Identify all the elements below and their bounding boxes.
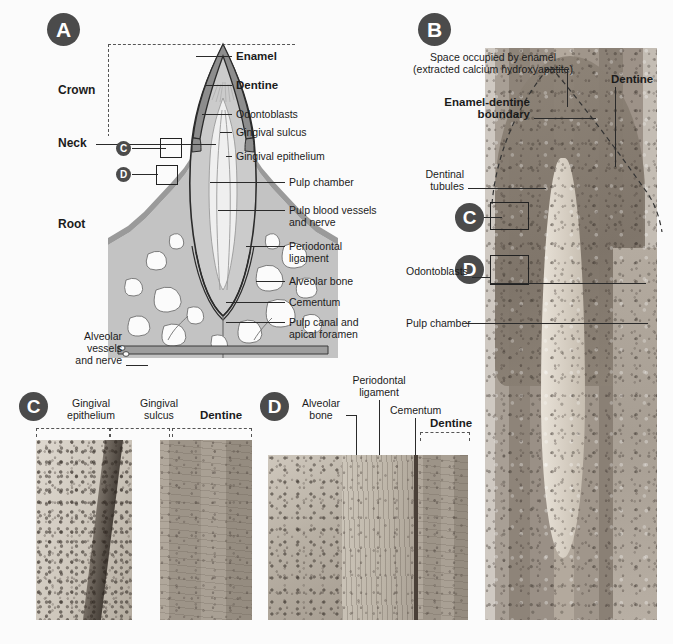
- leader-alveolar-bone-a: [256, 281, 285, 282]
- label-pulp-vessels-a: Pulp blood vessels and nerve: [289, 204, 377, 228]
- label-odontoblasts-a: Odontoblasts: [236, 108, 298, 120]
- leader-cementum-d: [415, 418, 416, 456]
- label-cementum-a: Cementum: [289, 296, 340, 308]
- leader-enamel-space-b-v: [567, 69, 568, 107]
- label-root: Root: [58, 218, 85, 230]
- label-crown: Crown: [58, 84, 95, 96]
- leader-pulp-canal-a: [226, 322, 285, 323]
- dashed-bracket-dentine-c: [172, 428, 252, 437]
- label-enamel-a: Enamel: [236, 50, 277, 62]
- label-gingival-sulcus-a: Gingival sulcus: [236, 126, 307, 138]
- label-dentine-d: Dentine: [430, 417, 472, 429]
- leader-enamel-a: [196, 56, 232, 57]
- label-dentine-a: Dentine: [236, 79, 278, 91]
- leader-cementum-a: [226, 302, 285, 303]
- leader-odontoblasts-a: [202, 114, 232, 115]
- label-alveolar-bone-a: Alveolar bone: [289, 275, 353, 287]
- panel-d-badge: D: [260, 392, 289, 421]
- label-alveolar-vessels-a: Alveolar vessels and nerve: [62, 330, 122, 366]
- sulcus-dark-band-c: [83, 440, 123, 620]
- dentinal-tubule-stripes-c: [160, 440, 252, 620]
- figure-canvas: A: [0, 0, 673, 644]
- leader-dentine-b: [615, 87, 616, 167]
- micrograph-d-bone-cells: [268, 455, 342, 620]
- leader-pulp-chamber-b: [466, 323, 648, 324]
- label-gingival-epithelium-a: Gingival epithelium: [236, 150, 325, 162]
- micrograph-panel-c-epithelium: [36, 440, 132, 620]
- leader-gingival-sulcus-a: [220, 132, 232, 133]
- panel-a-roi-c-badge: C: [116, 141, 131, 156]
- leader-neck: [96, 144, 216, 145]
- leader-periodontal-ligament-a: [246, 246, 285, 247]
- micrograph-panel-d-bone: [268, 455, 342, 620]
- leader-odontoblasts-b-left: [472, 277, 490, 278]
- roi-box-c-on-a: [160, 138, 182, 158]
- panel-c-badge: C: [19, 392, 48, 421]
- ligament-fibres-d: [342, 455, 414, 620]
- dashed-bracket-gingival-epithelium-c: [36, 428, 110, 437]
- dashed-bracket-gingival-sulcus-c: [110, 428, 170, 437]
- label-pulp-chamber-b: Pulp chamber: [406, 317, 471, 329]
- label-periodontal-ligament-d: Periodontal ligament: [342, 374, 416, 398]
- panel-a-roi-d-badge: D: [116, 167, 131, 182]
- label-dentinal-tubules-b: Dentinal tubules: [406, 168, 464, 192]
- label-dentine-c: Dentine: [186, 409, 256, 421]
- label-odontoblasts-b: Odontoblasts: [406, 265, 468, 277]
- leader-pulp-vessels-a: [218, 210, 285, 211]
- leader-alveolar-vessels-a: [126, 365, 148, 366]
- panel-b-roi-c-badge: C: [455, 203, 484, 232]
- leader-roi-d: [132, 174, 158, 175]
- micrograph-panel-d-ligament: [342, 455, 414, 620]
- micrograph-panel-d-dentine: [418, 455, 468, 620]
- leader-odontoblasts-b-right: [490, 283, 646, 284]
- label-alveolar-bone-d: Alveolar bone: [290, 397, 352, 421]
- leader-dentinal-tubules-b: [468, 188, 546, 189]
- label-periodontal-ligament-a: Periodontal ligament: [289, 240, 342, 264]
- label-enamel-dentine-boundary-b: Enamel-dentine boundary: [412, 96, 530, 120]
- label-gingival-epithelium-c: Gingival epithelium: [56, 397, 126, 421]
- panel-a-badge: A: [47, 13, 80, 46]
- leader-gingival-epithelium-a: [226, 156, 232, 157]
- leader-enamel-space-b-h: [545, 69, 567, 70]
- label-dentine-b: Dentine: [611, 73, 653, 85]
- dentinal-tubule-stripes-d: [418, 455, 468, 620]
- roi-box-d-on-b: [490, 255, 529, 285]
- leader-periodontal-ligament-d: [379, 400, 380, 455]
- micrograph-panel-c-dentine: [160, 440, 252, 620]
- micrograph-c-cells: [36, 440, 132, 620]
- dashed-bracket-dentine-d: [420, 432, 470, 441]
- leader-alveolar-bone-d-h: [346, 415, 356, 416]
- roi-box-c-on-b: [490, 202, 529, 230]
- roi-box-d-on-a: [156, 165, 178, 185]
- alveolar-bone-region-b: [613, 248, 657, 620]
- label-pulp-canal-a: Pulp canal and apical foramen: [289, 316, 358, 340]
- leader-alveolar-bone-d-v: [356, 415, 357, 455]
- leader-pulp-chamber-a: [210, 182, 285, 183]
- leader-enamel-dentine-boundary-b: [534, 118, 596, 119]
- leader-dentine-a: [206, 85, 232, 86]
- label-pulp-chamber-a: Pulp chamber: [289, 176, 354, 188]
- label-cementum-d: Cementum: [390, 404, 441, 416]
- label-gingival-sulcus-c: Gingival sulcus: [128, 397, 190, 421]
- label-enamel-space-b: Space occupied by enamel (extracted calc…: [398, 51, 588, 75]
- label-neck: Neck: [58, 137, 87, 149]
- panel-b-badge: B: [418, 13, 451, 46]
